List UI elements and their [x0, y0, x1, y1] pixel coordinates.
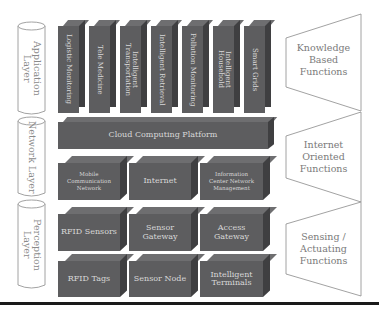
layer-cylinder-application: Application Layer: [17, 21, 46, 116]
layer-label-application: Application Layer: [22, 41, 42, 96]
cloud-computing-platform: Cloud Computing Platform: [58, 117, 274, 149]
pillar-smart-grids: Smart Grids: [244, 20, 271, 113]
platform-label: Cloud Computing Platform: [109, 131, 218, 140]
pillar-intelligent-transportation: Intelligent Transportation: [120, 20, 147, 113]
function-label-internet-oriented: Internet Oriented Functions: [286, 139, 361, 175]
pillar-label: Pollution Monitoring: [189, 33, 197, 106]
box-label: Information Center Network Management: [209, 171, 254, 192]
box-label: Sensor Gateway: [142, 224, 177, 241]
box-access-gateway: Access Gateway: [200, 207, 270, 251]
pillar-logistic-monitoring: Logistic Monitoring: [58, 20, 85, 113]
box-label: Intelligent Terminals: [210, 271, 252, 288]
layer-cylinder-network: Network Layer: [17, 116, 46, 198]
pillar-label: Tele Medicine: [96, 45, 104, 95]
pillar-label: Intelligent Retrieval: [158, 34, 166, 105]
bottom-divider: [0, 302, 379, 305]
box-rfid-tags: RFID Tags: [58, 254, 127, 297]
box-rfid-sensors: RFID Sensors: [58, 207, 127, 251]
box-label: RFID Tags: [68, 275, 110, 284]
pillar-tele-medicine: Tele Medicine: [89, 20, 116, 113]
box-mobile-communication-network: Mobile Communication Network: [58, 156, 127, 200]
layer-label-network: Network Layer: [27, 121, 37, 193]
box-intelligent-terminals: Intelligent Terminals: [200, 254, 270, 297]
layer-label-perception: Perception Layer: [22, 219, 42, 271]
pillar-label: Intelligent Household: [216, 50, 231, 88]
function-label-knowledge-based: Knowledge Based Functions: [286, 42, 361, 78]
pillar-label: Logistic Monitoring: [65, 34, 73, 104]
box-label: Internet: [143, 177, 176, 186]
box-label: RFID Sensors: [61, 228, 117, 237]
pillar-label: Intelligent Transportation: [123, 43, 138, 96]
box-sensor-node: Sensor Node: [129, 254, 198, 297]
pillar-pollution-monitoring: Pollution Monitoring: [182, 20, 209, 113]
box-label: Sensor Node: [134, 275, 186, 284]
pillar-intelligent-household: Intelligent Household: [213, 20, 240, 113]
box-information-center-network-management: Information Center Network Management: [200, 156, 270, 200]
box-sensor-gateway: Sensor Gateway: [129, 207, 198, 251]
box-internet: Internet: [129, 156, 198, 200]
layer-cylinder-perception: Perception Layer: [17, 199, 46, 290]
pillar-label: Smart Grids: [251, 48, 259, 91]
box-label: Mobile Communication Network: [67, 171, 111, 192]
function-label-sensing-actuating: Sensing / Actuating Functions: [286, 231, 361, 267]
pillar-intelligent-retrieval: Intelligent Retrieval: [151, 20, 178, 113]
box-label: Access Gateway: [214, 224, 249, 241]
